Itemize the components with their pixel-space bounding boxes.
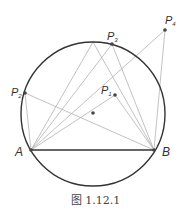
ray-B-top [93, 42, 154, 150]
label-B: B [162, 145, 170, 159]
label-A: A [14, 145, 23, 159]
point-B [152, 148, 156, 152]
point-A [29, 148, 33, 152]
label-P2: P2 [11, 86, 22, 99]
point-P3 [110, 42, 114, 46]
label-P4: P4 [165, 14, 176, 27]
center-point [91, 111, 95, 115]
ray-A-top [31, 42, 93, 150]
point-P2 [23, 91, 27, 95]
figure-caption: 图 1.12.1 [0, 191, 191, 207]
point-P4 [163, 28, 167, 32]
ray-A-P4 [31, 30, 165, 150]
label-P1: P1 [101, 84, 112, 97]
ray-A-P1 [31, 95, 115, 150]
geometry-diagram: A B P1 P2 P3 P4 [0, 0, 191, 215]
label-P3: P3 [107, 30, 118, 43]
ray-A-P3 [31, 44, 112, 150]
point-P1 [113, 93, 117, 97]
